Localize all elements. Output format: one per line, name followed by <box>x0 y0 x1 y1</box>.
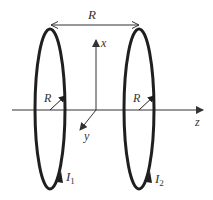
x-axis-label: x <box>100 36 107 50</box>
coil-2-radius-arrow <box>139 96 154 110</box>
coil-2-current-label: I2 <box>154 171 164 188</box>
coil-1-current-subscript: 1 <box>70 176 75 186</box>
coil-1-radius-label: R <box>43 91 52 105</box>
z-axis-label: z <box>194 115 200 129</box>
coil-2-radius-label: R <box>132 91 141 105</box>
diagram-canvas: R x y z R R I1 I2 <box>0 0 213 200</box>
y-axis-label: y <box>83 129 90 143</box>
coil-2-current-subscript: 2 <box>159 178 164 188</box>
helmholtz-coil-diagram: R x y z R R I1 I2 <box>0 0 213 200</box>
separation-label: R <box>87 7 96 22</box>
coil-2-loop <box>124 29 154 189</box>
y-axis <box>80 110 96 130</box>
coil-1-loop <box>35 29 65 189</box>
coil-1-current-label: I1 <box>65 169 75 186</box>
coil-1-radius-arrow <box>50 96 65 110</box>
